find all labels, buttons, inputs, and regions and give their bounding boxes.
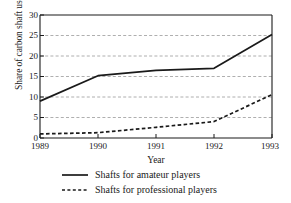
legend-label: Shafts for amateur players — [95, 169, 200, 180]
gridlines — [40, 36, 272, 118]
x-tick-label: 1991 — [136, 141, 176, 151]
legend-label: Shafts for professional players — [95, 184, 217, 195]
x-tick-marks — [40, 134, 272, 138]
series-line-professional — [40, 95, 272, 134]
chart-figure: Share of carbon shaft use (%) 30 25 20 1… — [0, 0, 291, 203]
x-axis-title: Year — [40, 155, 272, 165]
x-tick-label: 1989 — [20, 141, 60, 151]
x-tick-label: 1993 — [250, 141, 290, 151]
legend-item-amateur: Shafts for amateur players — [0, 167, 291, 182]
chart-legend: Shafts for amateur players Shafts for pr… — [0, 167, 291, 197]
x-tick-label: 1990 — [78, 141, 118, 151]
x-tick-label: 1992 — [194, 141, 234, 151]
legend-item-professional: Shafts for professional players — [0, 182, 291, 197]
series-line-amateur — [40, 35, 272, 102]
y-tick-marks — [40, 15, 44, 138]
legend-solid-line-icon — [62, 170, 88, 180]
legend-dashed-line-icon — [62, 185, 88, 195]
